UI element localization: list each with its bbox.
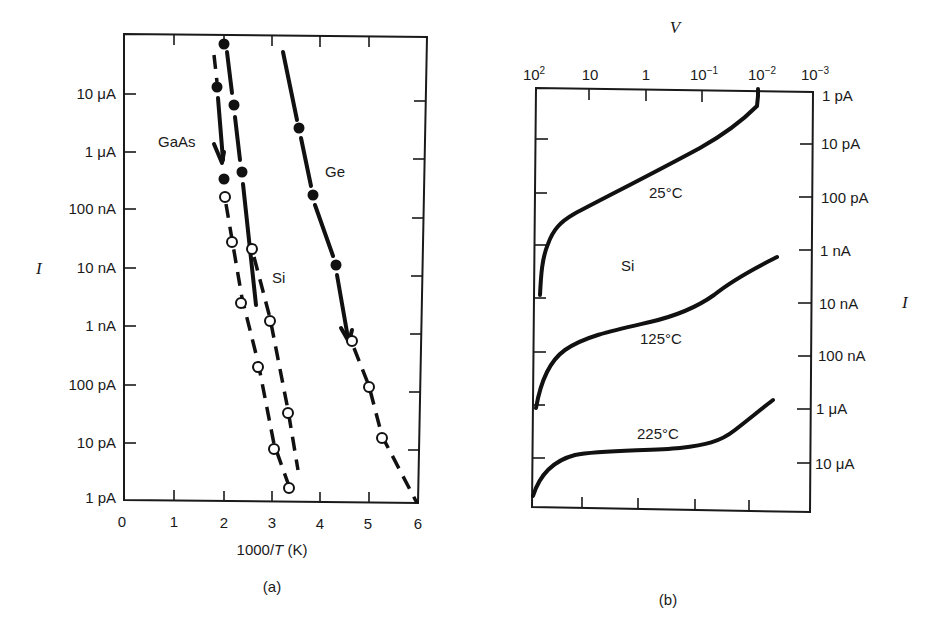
svg-text:1 nA: 1 nA [820, 242, 851, 259]
svg-text:1: 1 [642, 66, 650, 83]
panel-b-x-title: V [670, 18, 683, 37]
svg-text:4: 4 [316, 515, 324, 532]
series-gaas-2 [219, 39, 257, 306]
series-gaas [212, 55, 230, 185]
svg-text:100 nA: 100 nA [68, 200, 116, 217]
svg-text:100 pA: 100 pA [821, 189, 869, 206]
svg-text:10 pA: 10 pA [77, 434, 116, 451]
svg-text:1 nA: 1 nA [85, 317, 116, 334]
panel-a-y-title: I [35, 259, 43, 278]
svg-text:102: 102 [523, 65, 546, 83]
svg-text:5: 5 [364, 515, 372, 532]
svg-text:10−1: 10−1 [690, 65, 719, 83]
svg-text:1 pA: 1 pA [85, 489, 116, 506]
svg-text:6: 6 [414, 515, 422, 532]
label-gaas: GaAs [158, 133, 196, 150]
label-25c: 25°C [649, 184, 683, 201]
label-si-b: Si [621, 257, 634, 274]
svg-text:10 μA: 10 μA [77, 85, 117, 102]
svg-text:10−2: 10−2 [748, 65, 777, 83]
svg-text:10 μA: 10 μA [815, 455, 855, 472]
svg-text:10 nA: 10 nA [819, 295, 858, 312]
svg-text:2: 2 [220, 514, 228, 531]
svg-text:1 pA: 1 pA [822, 87, 853, 104]
svg-text:10: 10 [582, 66, 599, 83]
panel-b-caption: (b) [659, 591, 677, 608]
label-225c: 225°C [637, 425, 679, 442]
curve-225c [533, 400, 773, 496]
label-ge: Ge [325, 163, 345, 180]
svg-text:10 nA: 10 nA [77, 259, 116, 276]
svg-text:100 nA: 100 nA [818, 347, 866, 364]
panel-a-y-labels: 10 μA 1 μA 100 nA 10 nA 1 nA 100 pA 10 p… [68, 85, 116, 506]
svg-text:0: 0 [118, 513, 126, 530]
series-si-left [220, 192, 294, 493]
figure: 10 μA 1 μA 100 nA 10 nA 1 nA 100 pA 10 p… [0, 0, 941, 628]
panel-b: V 102 10 1 10−1 10−2 10−3 1 pA 10 pA 100… [523, 18, 909, 608]
panel-b-y-title: I [901, 293, 909, 312]
panel-a-x-labels: 0 1 2 3 4 5 6 [118, 513, 422, 532]
panel-a: 10 μA 1 μA 100 nA 10 nA 1 nA 100 pA 10 p… [35, 34, 427, 595]
svg-text:3: 3 [268, 514, 276, 531]
panel-a-caption: (a) [263, 578, 281, 595]
svg-text:1 μA: 1 μA [816, 400, 847, 417]
svg-text:1: 1 [170, 513, 178, 530]
panel-b-x-labels: 102 10 1 10−1 10−2 10−3 [523, 65, 830, 83]
svg-text:100 pA: 100 pA [68, 376, 116, 393]
panel-a-x-title: 1000/T (K) [237, 541, 308, 558]
svg-text:1 μA: 1 μA [85, 143, 116, 160]
svg-text:10 pA: 10 pA [821, 135, 860, 152]
label-si-a: Si [272, 269, 285, 286]
panel-b-y-labels: 1 pA 10 pA 100 pA 1 nA 10 nA 100 nA 1 μA… [815, 87, 869, 472]
series-ge [283, 52, 417, 503]
label-125c: 125°C [640, 330, 682, 347]
svg-text:10−3: 10−3 [801, 65, 830, 83]
panel-a-left-ticks [124, 94, 136, 443]
